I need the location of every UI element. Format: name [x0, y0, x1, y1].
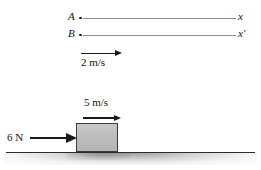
frame-b-origin-dot	[79, 34, 82, 37]
ground-shadow	[4, 153, 257, 165]
block-velocity-label: 5 m/s	[84, 97, 108, 108]
frame-a-axis-line	[83, 18, 236, 19]
relative-velocity-arrow-head	[115, 50, 122, 56]
relative-velocity-label: 2 m/s	[81, 57, 105, 68]
frame-a-origin-dot	[79, 17, 82, 20]
frame-b-axis-line	[83, 35, 236, 36]
applied-force-label: 6 N	[7, 132, 23, 143]
block-velocity-arrow-head	[114, 115, 121, 121]
frame-a-axis-label: x	[238, 11, 243, 22]
frame-b-axis-label: x′	[238, 28, 245, 39]
frame-b-origin-label: B	[68, 28, 75, 39]
frame-a-origin-label: A	[68, 11, 75, 22]
relative-velocity-arrow-shaft	[81, 53, 117, 54]
sliding-block	[76, 123, 118, 152]
block-velocity-arrow-shaft	[83, 117, 116, 118]
applied-force-arrow-shaft	[30, 137, 68, 140]
physics-diagram-canvas: A x B x′ 2 m/s 5 m/s 6 N	[0, 0, 261, 170]
